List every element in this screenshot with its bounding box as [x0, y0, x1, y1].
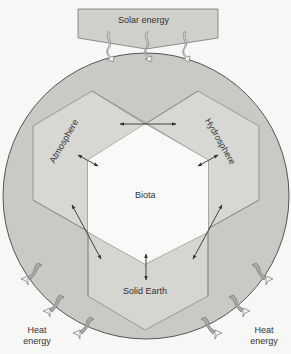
solar-energy-label: Solar energy: [118, 15, 169, 26]
solid-earth-label: Solid Earth: [123, 286, 167, 297]
heat-energy-left-line2: energy: [22, 336, 52, 347]
heat-arrow-icon: [73, 330, 80, 339]
heat-arrow-icon: [243, 308, 250, 317]
heat-arrow-icon: [43, 308, 50, 317]
biota-label: Biota: [135, 190, 156, 201]
heat-energy-label-left: Heat energy: [22, 325, 52, 347]
heat-arrow-icon: [21, 276, 28, 285]
heat-energy-right-line1: Heat: [248, 325, 280, 336]
heat-energy-left-line1: Heat: [22, 325, 52, 336]
heat-arrow-icon: [215, 330, 222, 339]
heat-energy-label-right: Heat energy: [248, 325, 280, 347]
heat-energy-right-line2: energy: [248, 336, 280, 347]
heat-arrow-icon: [266, 276, 273, 285]
earth-system-diagram: [0, 0, 291, 354]
